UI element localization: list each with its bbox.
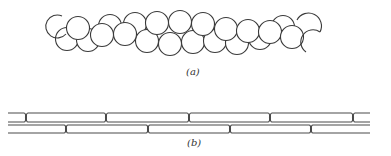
capsule-segment xyxy=(311,125,370,133)
chain-circle xyxy=(259,21,282,44)
chain-circle xyxy=(91,24,114,47)
chain-circle xyxy=(114,23,137,46)
capsule-segment xyxy=(270,113,352,122)
chain-circle xyxy=(215,18,238,41)
capsule-segment xyxy=(230,125,310,133)
capsule-segment xyxy=(26,113,105,122)
chain-circle xyxy=(67,17,90,40)
capsule-segment xyxy=(66,125,147,133)
right-end-arc-bottom xyxy=(301,30,320,52)
panel-label-a: (a) xyxy=(186,66,200,77)
capsule-segment xyxy=(8,113,26,122)
capsule-segment xyxy=(353,113,370,122)
chain-circle xyxy=(237,20,260,43)
panel-label-b: (b) xyxy=(187,137,201,148)
capsule-segment xyxy=(148,125,229,133)
capsule-segment xyxy=(8,125,66,133)
capsule-segment xyxy=(189,113,269,122)
capsule-segment xyxy=(106,113,188,122)
figure-canvas xyxy=(0,0,391,156)
panel-b-capsule-strip xyxy=(8,113,370,133)
chain-circle xyxy=(159,33,182,56)
panel-a-circle-chain xyxy=(56,11,304,56)
chain-circle xyxy=(146,12,169,35)
chain-circle xyxy=(281,26,304,49)
chain-circle xyxy=(169,11,192,34)
chain-circle xyxy=(192,13,215,36)
